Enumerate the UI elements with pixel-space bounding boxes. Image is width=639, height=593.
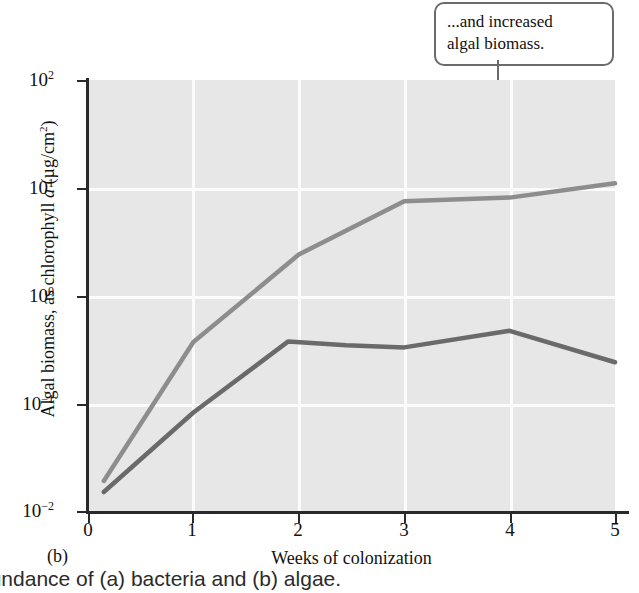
figure-caption-text: bundance of (a) bacteria and (b) algae. xyxy=(0,571,341,591)
figure-panel-b: ...and increased algal biomass. 102 101 … xyxy=(0,0,639,593)
gridline-horizontal xyxy=(88,296,615,299)
y-tick-mark xyxy=(77,404,88,406)
y-label-exponent: −2 xyxy=(41,499,54,513)
panel-label: (b) xyxy=(47,546,68,567)
y-axis-label: 10−2 xyxy=(22,499,54,522)
y-label-mantissa: 10 xyxy=(22,500,41,521)
y-axis-title-paren: ) xyxy=(38,121,58,127)
gridline-horizontal xyxy=(88,188,615,191)
x-axis-label: 2 xyxy=(283,519,313,541)
y-axis-title-italic: a xyxy=(38,189,58,198)
figure-caption: bundance of (a) bacteria and (b) algae. xyxy=(0,571,639,593)
y-axis-title-text: Algal biomass, as chlorophyll xyxy=(38,198,58,417)
x-axis-label: 3 xyxy=(389,519,419,541)
x-axis-label: 1 xyxy=(177,519,207,541)
y-axis-title: Algal biomass, as chlorophyll a (µg/cm2) xyxy=(37,59,59,479)
x-axis-line xyxy=(86,511,629,514)
y-tick-mark xyxy=(77,188,88,190)
y-axis-title-superscript: 2 xyxy=(37,127,49,133)
callout-line-2: algal biomass. xyxy=(447,33,601,55)
y-tick-mark xyxy=(77,511,88,513)
x-axis-title: Weeks of colonization xyxy=(88,548,615,569)
x-axis-label: 4 xyxy=(495,519,525,541)
y-axis-title-units: (µg/cm xyxy=(38,132,58,189)
annotation-callout: ...and increased algal biomass. xyxy=(434,2,614,66)
x-axis-label: 0 xyxy=(73,519,103,541)
y-tick-mark xyxy=(77,296,88,298)
callout-line-1: ...and increased xyxy=(447,11,601,33)
x-axis-label: 5 xyxy=(600,519,630,541)
y-tick-mark xyxy=(77,80,88,82)
gridline-horizontal xyxy=(88,404,615,407)
